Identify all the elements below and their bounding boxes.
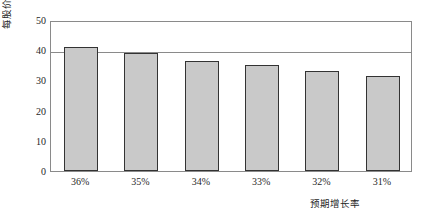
x-tick-label: 35%: [110, 176, 170, 188]
bar[interactable]: [305, 71, 339, 171]
bar-slot: [51, 22, 111, 171]
bar-slot: [111, 22, 171, 171]
x-tick-label: 34%: [171, 176, 231, 188]
x-tick-label: 36%: [50, 176, 110, 188]
bar-chart-figure: 每股价值(美元) 01020304050 36%35%34%33%32%31% …: [0, 0, 427, 221]
plot-area: [50, 21, 412, 172]
bar[interactable]: [64, 47, 98, 171]
bar-slot: [172, 22, 232, 171]
x-tick-label: 31%: [352, 176, 412, 188]
y-tick-label: 0: [20, 167, 46, 177]
y-tick-label: 50: [20, 16, 46, 26]
bar-slot: [232, 22, 292, 171]
y-tick-label: 40: [20, 46, 46, 56]
bar-slot: [353, 22, 413, 171]
bars-layer: [51, 22, 411, 171]
bar-slot: [292, 22, 352, 171]
bar[interactable]: [245, 65, 279, 171]
x-axis-tick-labels: 36%35%34%33%32%31%: [50, 176, 412, 190]
bar[interactable]: [366, 76, 400, 171]
y-tick-label: 20: [20, 107, 46, 117]
x-axis-title: 预期增长率: [310, 198, 420, 210]
x-tick-label: 33%: [231, 176, 291, 188]
bar[interactable]: [124, 53, 158, 171]
y-tick-label: 30: [20, 76, 46, 86]
x-tick-label: 32%: [291, 176, 351, 188]
y-axis-tick-labels: 01020304050: [18, 0, 46, 221]
y-axis-title: 每股价值(美元): [0, 0, 14, 56]
y-tick-label: 10: [20, 137, 46, 147]
bar[interactable]: [185, 61, 219, 171]
